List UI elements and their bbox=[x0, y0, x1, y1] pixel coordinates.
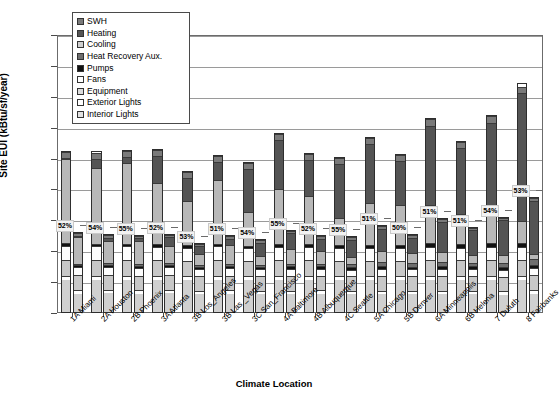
bar-segment bbox=[378, 269, 387, 276]
bar-segment bbox=[317, 251, 326, 264]
bar-segment bbox=[438, 269, 447, 276]
savings-label: 51% bbox=[420, 206, 438, 218]
bar-segment bbox=[135, 268, 144, 276]
legend-item: Interior Lights bbox=[77, 109, 185, 121]
bar-segment bbox=[275, 260, 284, 275]
chart-legend: SWHHeatingCoolingHeat Recovery Aux.Pumps… bbox=[72, 12, 190, 124]
bar-segment bbox=[469, 255, 478, 263]
savings-label: 53% bbox=[177, 231, 195, 243]
bar-segment bbox=[123, 246, 132, 260]
legend-label: Interior Lights bbox=[87, 110, 139, 119]
legend-label: Heat Recovery Aux. bbox=[87, 52, 162, 61]
bar-segment bbox=[244, 169, 253, 212]
bar-segment bbox=[457, 248, 466, 261]
bar-segment bbox=[499, 255, 508, 263]
y-tick-mark bbox=[51, 97, 57, 98]
savings-leader-line bbox=[171, 227, 178, 228]
legend-swatch-icon bbox=[77, 88, 84, 95]
bar-segment bbox=[135, 241, 144, 264]
bar-segment bbox=[518, 260, 527, 275]
legend-swatch-icon bbox=[77, 99, 84, 106]
bar-segment bbox=[487, 247, 496, 260]
y-axis-title: Site EUI (kBtu/sf/year) bbox=[0, 1, 9, 251]
bar-segment bbox=[62, 246, 71, 261]
bar-segment bbox=[165, 275, 174, 290]
legend-swatch-icon bbox=[77, 18, 84, 25]
bar-segment bbox=[518, 221, 527, 242]
bar-segment bbox=[335, 248, 344, 260]
bar-segment bbox=[438, 276, 447, 290]
bar-segment bbox=[74, 267, 83, 275]
bar-segment bbox=[530, 268, 539, 275]
legend-swatch-icon bbox=[77, 65, 84, 72]
bar-segment bbox=[62, 280, 71, 312]
bar-segment bbox=[518, 280, 527, 312]
savings-label: 51% bbox=[208, 223, 226, 235]
bar-low-energy bbox=[377, 225, 388, 313]
bar-segment bbox=[104, 241, 113, 263]
savings-label: 55% bbox=[269, 218, 287, 230]
legend-item: SWH bbox=[77, 16, 185, 28]
bar-segment bbox=[408, 253, 417, 263]
bar-segment bbox=[165, 267, 174, 274]
savings-leader-line bbox=[414, 227, 421, 228]
bar-low-energy bbox=[529, 197, 540, 313]
y-tick-mark bbox=[51, 313, 57, 314]
savings-leader-line bbox=[536, 190, 543, 191]
bar-segment bbox=[396, 261, 405, 276]
bar-segment bbox=[426, 247, 435, 260]
savings-leader-line bbox=[353, 229, 360, 230]
bar-low-energy bbox=[407, 234, 418, 313]
savings-label: 55% bbox=[329, 224, 347, 236]
bar-segment bbox=[487, 123, 496, 213]
legend-item: Heat Recovery Aux. bbox=[77, 51, 185, 63]
bar-low-energy bbox=[468, 227, 479, 313]
legend-item: Pumps bbox=[77, 62, 185, 74]
savings-leader-line bbox=[505, 210, 512, 211]
bar-segment bbox=[135, 276, 144, 291]
legend-label: Heating bbox=[87, 29, 116, 38]
bar-segment bbox=[195, 276, 204, 291]
bar-segment bbox=[74, 275, 83, 290]
bar-segment bbox=[244, 248, 253, 260]
savings-label: 55% bbox=[117, 223, 135, 235]
legend-swatch-icon bbox=[77, 41, 84, 48]
bar-segment bbox=[335, 164, 344, 217]
bar-segment bbox=[408, 269, 417, 276]
bar-segment bbox=[408, 276, 417, 290]
y-tick-mark bbox=[51, 251, 57, 252]
bar-segment bbox=[378, 229, 387, 251]
savings-label: 54% bbox=[238, 227, 256, 239]
bar-segment bbox=[396, 161, 405, 205]
bar-segment bbox=[305, 160, 314, 195]
legend-label: Fans bbox=[87, 75, 106, 84]
bar-segment bbox=[518, 93, 527, 222]
x-axis-title: Climate Location bbox=[0, 378, 548, 389]
y-tick-mark bbox=[51, 128, 57, 129]
bar-segment bbox=[347, 270, 356, 277]
bar-segment bbox=[378, 276, 387, 291]
bar-segment bbox=[104, 267, 113, 275]
bar-segment bbox=[195, 254, 204, 266]
bar-segment bbox=[153, 247, 162, 260]
legend-item: Equipment bbox=[77, 86, 185, 98]
bar-segment bbox=[499, 277, 508, 291]
bar-segment bbox=[153, 156, 162, 183]
bar-segment bbox=[153, 260, 162, 275]
gridline bbox=[58, 129, 542, 130]
bar-segment bbox=[530, 275, 539, 290]
legend-label: SWH bbox=[87, 17, 107, 26]
bar-low-energy bbox=[134, 235, 145, 313]
legend-item: Heating bbox=[77, 28, 185, 40]
bar-segment bbox=[378, 251, 387, 263]
bar-segment bbox=[408, 238, 417, 254]
bar-segment bbox=[214, 162, 223, 180]
bar-segment bbox=[62, 260, 71, 275]
bar-segment bbox=[275, 189, 284, 244]
bar-segment bbox=[317, 239, 326, 251]
savings-leader-line bbox=[444, 211, 451, 212]
bar-segment bbox=[457, 148, 466, 214]
legend-label: Cooling bbox=[87, 40, 116, 49]
bar-segment bbox=[335, 261, 344, 276]
